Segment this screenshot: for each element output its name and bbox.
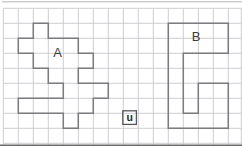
shape-b-label: B (192, 29, 201, 44)
unit-square-label: u (126, 111, 132, 123)
figure-canvas: A B u (0, 0, 242, 148)
grid-figure: A B u (0, 0, 242, 148)
shape-a-label: A (53, 45, 62, 60)
